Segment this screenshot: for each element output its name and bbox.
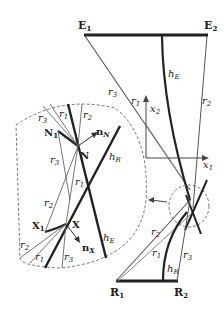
label-r3-lower: r3 xyxy=(183,249,193,262)
label-nX: nX xyxy=(82,242,95,255)
diagram-canvas: E1 E2 R1 R2 hE hR r3 r1 r2 x2 x1 r2 r1 r… xyxy=(0,0,224,312)
axis-x2-arrow xyxy=(143,95,149,102)
label-r1-lower: r1 xyxy=(152,247,161,260)
label-N: N xyxy=(80,150,89,161)
label-E2: E2 xyxy=(204,19,217,33)
label-r1-zoom-bottom: r1 xyxy=(35,251,44,264)
label-r1-zoom-mid: r1 xyxy=(75,176,84,189)
label-N1: N1 xyxy=(44,127,58,140)
label-X1: X1 xyxy=(32,220,45,233)
label-r3-zoom-bottom: r3 xyxy=(64,251,74,264)
ray-r2-from-E2 xyxy=(193,36,207,208)
label-x2: x2 xyxy=(150,103,161,116)
label-r3-main: r3 xyxy=(108,86,118,99)
label-r3-zoom-top: r3 xyxy=(38,112,48,125)
geometry-diagram: E1 E2 R1 R2 hE hR r3 r1 r2 x2 x1 r2 r1 r… xyxy=(0,0,224,312)
label-hE-zoom: hE xyxy=(103,232,115,245)
normal-nN xyxy=(78,134,95,146)
label-r2-zoom-mid: r2 xyxy=(44,197,54,210)
zoom-arrow-head xyxy=(148,197,154,203)
label-E1: E1 xyxy=(78,19,91,33)
label-hE-main: hE xyxy=(168,68,180,81)
label-r2-lower: r2 xyxy=(151,226,161,239)
label-r2-main: r2 xyxy=(202,95,212,108)
label-r3-zoom-mid: r3 xyxy=(50,154,60,167)
label-r2-zoom-top: r2 xyxy=(83,109,93,122)
label-r2-zoom-bottom: r2 xyxy=(20,239,30,252)
normal-nX-arrow xyxy=(74,236,80,243)
zoom-ray-r3-N1 xyxy=(58,131,70,200)
label-nN: nN xyxy=(96,126,110,139)
curve-hE xyxy=(162,36,190,200)
label-x1: x1 xyxy=(203,159,213,172)
label-hR-zoom: hR xyxy=(109,151,121,164)
label-R2: R2 xyxy=(174,286,188,300)
label-R1: R1 xyxy=(110,286,124,300)
label-X: X xyxy=(72,219,80,230)
zoom-ray-r2-top xyxy=(78,104,82,146)
label-hR-main: hR xyxy=(167,263,179,276)
